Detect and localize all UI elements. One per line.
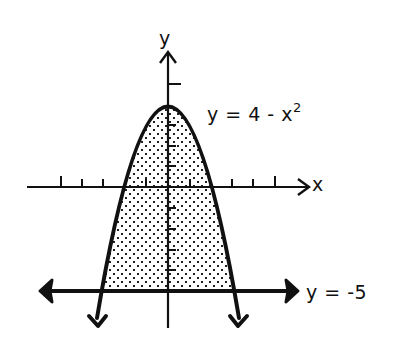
parabola-equation-label: y = 4 - x2	[207, 103, 302, 124]
right-arrowhead-icon	[286, 280, 298, 302]
parabola-equation-exponent: 2	[293, 100, 302, 115]
x-axis-label: x	[312, 175, 323, 194]
left-arrowhead-icon	[40, 280, 52, 302]
line-equation-label: y = -5	[306, 283, 367, 302]
graph-figure: y x y = 4 - x2 y = -5	[0, 0, 403, 355]
y-axis-label: y	[159, 29, 170, 48]
parabola-equation-text: y = 4 - x	[207, 103, 293, 125]
